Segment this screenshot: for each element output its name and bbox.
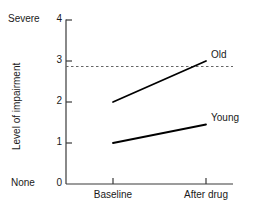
x-category-label-baseline: Baseline	[88, 190, 138, 200]
series-line-old	[113, 61, 206, 102]
y-axis-top-anchor-label: Severe	[8, 14, 40, 24]
y-tick-label-0: 0	[50, 178, 62, 188]
y-axis-bottom-anchor-label: None	[11, 178, 35, 188]
series-label-young: Young	[211, 113, 239, 123]
y-axis-title: Level of impairment	[12, 63, 22, 150]
chart-plot-area	[0, 0, 259, 205]
x-category-label-after-drug: After drug	[177, 190, 235, 200]
y-tick-label-4: 4	[50, 14, 62, 24]
impairment-line-chart: 4 3 2 1 0 Severe None Level of impairmen…	[0, 0, 259, 205]
y-tick-label-2: 2	[50, 96, 62, 106]
y-tick-label-1: 1	[50, 137, 62, 147]
y-tick-label-3: 3	[50, 55, 62, 65]
series-line-young	[113, 125, 206, 144]
series-label-old: Old	[211, 50, 227, 60]
